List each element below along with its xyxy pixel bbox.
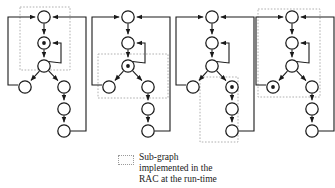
subgraph-swatch-icon [118,155,134,165]
node-n1[interactable] [38,11,50,23]
edge-n3-n5 [133,71,142,81]
node-n5[interactable] [142,81,154,93]
edge-n3-n4 [115,71,124,80]
edge-n4-n1-loop [8,17,35,85]
edge-n4-n1-loop [176,17,203,85]
node-n7[interactable] [58,125,70,137]
node-n7[interactable] [226,125,238,137]
edge-n7-n1-loop [53,17,86,131]
edge-n3-n4 [31,71,40,80]
graph-1 [8,7,86,137]
token-marker-icon [126,64,130,68]
node-n3[interactable] [206,60,218,72]
node-n1[interactable] [122,11,134,23]
graphs-layer [8,7,334,142]
node-n7[interactable] [142,125,154,137]
token-marker-icon [230,85,234,89]
node-n4[interactable] [187,81,199,93]
token-marker-icon [271,85,275,89]
edge-n3-n2-backloop [216,43,229,63]
edge-n4-n1-loop [92,17,119,85]
edge-n7-n1-loop [221,17,254,131]
edge-n7-n1-loop [301,17,334,131]
node-n6[interactable] [142,103,154,115]
node-n2[interactable] [122,37,134,49]
node-n4[interactable] [103,81,115,93]
node-n4[interactable] [19,81,31,93]
node-n2[interactable] [206,37,218,49]
graph-2 [92,11,170,137]
node-n5[interactable] [306,81,318,93]
node-n1[interactable] [286,11,298,23]
node-n6[interactable] [306,103,318,115]
node-n3[interactable] [38,60,50,72]
edge-n3-n2-backloop [296,43,309,63]
graph-4 [256,9,334,137]
node-n1[interactable] [206,11,218,23]
node-n6[interactable] [58,103,70,115]
node-n6[interactable] [226,103,238,115]
graph-3 [176,11,254,142]
legend: Sub-graph implemented in the RAC at the … [118,152,217,185]
node-n5[interactable] [58,81,70,93]
edge-n3-n2-backloop [48,43,61,63]
node-n7[interactable] [306,125,318,137]
edge-n3-n4 [279,71,288,80]
edge-n3-n5 [49,71,58,81]
edge-n3-n5 [217,71,226,81]
edge-n4-n1-loop [256,17,283,85]
edge-n7-n1-loop [137,17,170,131]
node-n2[interactable] [286,37,298,49]
token-marker-icon [42,41,46,45]
legend-label: Sub-graph implemented in the RAC at the … [139,152,217,185]
edge-n3-n2-backloop [132,43,145,63]
node-n3[interactable] [286,60,298,72]
edge-n3-n4 [199,71,208,80]
edge-n3-n5 [297,71,306,81]
